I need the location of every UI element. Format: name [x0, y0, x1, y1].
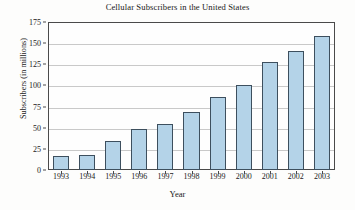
y-tick-mark — [43, 22, 46, 23]
y-axis-tick-labels: 0255075100125150175 — [0, 22, 46, 170]
y-tick-mark — [43, 64, 46, 65]
bar-slot — [79, 22, 95, 170]
bar — [314, 36, 330, 170]
bar — [210, 97, 226, 170]
bar-chart-figure: Cellular Subscribers in the United State… — [0, 0, 355, 210]
x-tick-mark — [165, 171, 166, 174]
bar-slot — [210, 22, 226, 170]
bar-slot — [131, 22, 147, 170]
y-tick-label: 100 — [29, 81, 41, 90]
y-tick-mark — [43, 43, 46, 44]
y-tick-label: 0 — [37, 166, 41, 175]
bar — [262, 62, 278, 170]
y-tick-mark — [43, 106, 46, 107]
y-tick-label: 25 — [33, 144, 41, 153]
y-tick-label: 50 — [33, 123, 41, 132]
x-tick-mark — [139, 171, 140, 174]
bar-slot — [262, 22, 278, 170]
y-tick-label: 125 — [29, 60, 41, 69]
chart-title: Cellular Subscribers in the United State… — [0, 2, 355, 12]
bar-slot — [314, 22, 330, 170]
bar — [53, 156, 69, 170]
bar — [157, 124, 173, 171]
x-tick-mark — [113, 171, 114, 174]
x-tick-mark — [270, 171, 271, 174]
bar — [236, 85, 252, 170]
bar-slot — [288, 22, 304, 170]
y-tick-label: 175 — [29, 18, 41, 27]
x-axis-title: Year — [0, 189, 355, 199]
bar — [288, 51, 304, 170]
x-tick-mark — [322, 171, 323, 174]
bar-slot — [53, 22, 69, 170]
y-tick-mark — [43, 148, 46, 149]
bar — [183, 112, 199, 170]
bar — [79, 155, 95, 170]
y-tick-mark — [43, 170, 46, 171]
bar-slot — [105, 22, 121, 170]
x-tick-mark — [218, 171, 219, 174]
bar-slot — [236, 22, 252, 170]
y-tick-mark — [43, 127, 46, 128]
x-tick-mark — [296, 171, 297, 174]
x-axis-tick-labels: 1993199419951996199719981999200020012002… — [48, 171, 335, 187]
bar — [105, 141, 121, 170]
bar — [131, 129, 147, 170]
x-tick-mark — [244, 171, 245, 174]
x-tick-mark — [61, 171, 62, 174]
y-tick-label: 75 — [33, 102, 41, 111]
x-tick-mark — [87, 171, 88, 174]
bar-slot — [157, 22, 173, 170]
bar-series — [48, 22, 335, 170]
bar-slot — [183, 22, 199, 170]
x-tick-mark — [192, 171, 193, 174]
y-tick-label: 150 — [29, 39, 41, 48]
y-tick-mark — [43, 85, 46, 86]
